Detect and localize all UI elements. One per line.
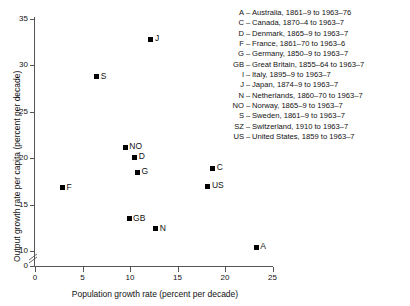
x-axis-tick-label: 25 — [261, 274, 285, 282]
x-axis-tick-label: 5 — [71, 274, 95, 282]
legend-item-key: SZ — [224, 122, 244, 132]
legend-item-key: F — [224, 39, 244, 49]
legend-item: S–Sweden, 1861–9 to 1963–7 — [224, 111, 408, 121]
data-point-label: S — [101, 72, 107, 81]
data-point-marker — [210, 166, 215, 171]
legend: A–Australia, 1861–9 to 1963–76C–Canada, … — [224, 8, 408, 142]
legend-item-key: GB — [224, 60, 244, 70]
x-axis-tick — [178, 267, 179, 272]
legend-item: D–Denmark, 1865–9 to 1963–7 — [224, 29, 408, 39]
data-point-label: A — [260, 242, 266, 251]
legend-item-dash: – — [244, 29, 252, 39]
legend-item-text: France, 1861–70 to 1963–6 — [252, 39, 408, 49]
legend-item-text: United States, 1859 to 1963–7 — [252, 132, 408, 142]
y-axis-line — [34, 17, 35, 267]
legend-item-text: Denmark, 1865–9 to 1963–7 — [252, 29, 408, 39]
y-axis-tick-label: 35 — [6, 15, 28, 23]
y-axis-tick — [30, 251, 35, 252]
legend-item-dash: – — [244, 122, 252, 132]
legend-item: US–United States, 1859 to 1963–7 — [224, 132, 408, 142]
data-point-marker — [153, 226, 158, 231]
data-point-marker — [123, 145, 128, 150]
data-point-label: J — [155, 34, 159, 43]
legend-item-text: Canada, 1870–4 to 1963–7 — [252, 18, 408, 28]
x-axis-line — [34, 266, 273, 267]
x-axis-tick — [225, 267, 226, 272]
y-axis-tick — [30, 19, 35, 20]
legend-item-key: J — [224, 80, 244, 90]
x-axis-tick-label: 20 — [213, 274, 237, 282]
x-axis-tick-label: 0 — [23, 274, 47, 282]
legend-item-dash: – — [244, 18, 252, 28]
data-point-label: GB — [133, 214, 145, 223]
data-point-marker — [205, 184, 210, 189]
data-point-marker — [132, 155, 137, 160]
data-point-label: N — [160, 224, 166, 233]
legend-item: I–Italy, 1895–9 to 1963–7 — [224, 70, 408, 80]
data-point-label: D — [139, 152, 145, 161]
legend-item-key: S — [224, 111, 244, 121]
data-point-marker — [60, 185, 65, 190]
legend-item: SZ–Switzerland, 1910 to 1963–7 — [224, 122, 408, 132]
y-axis-tick-label: 30 — [6, 61, 28, 69]
legend-item: G–Germany, 1850–9 to 1963–7 — [224, 49, 408, 59]
legend-item-text: Germany, 1850–9 to 1963–7 — [252, 49, 408, 59]
x-axis-tick — [273, 267, 274, 272]
legend-item-dash: – — [244, 132, 252, 142]
legend-item: C–Canada, 1870–4 to 1963–7 — [224, 18, 408, 28]
y-axis-break-icon — [28, 252, 41, 264]
data-point-label: C — [217, 163, 223, 172]
legend-item-dash: – — [244, 101, 252, 111]
legend-item-dash: – — [244, 49, 252, 59]
legend-item-text: Switzerland, 1910 to 1963–7 — [252, 122, 408, 132]
legend-item-dash: – — [244, 91, 252, 101]
y-axis-tick — [30, 65, 35, 66]
x-axis-tick — [35, 267, 36, 272]
legend-item-key: I — [224, 70, 244, 80]
legend-item-key: N — [224, 91, 244, 101]
data-point-marker — [127, 216, 132, 221]
legend-item-dash: – — [244, 8, 252, 18]
legend-item-key: G — [224, 49, 244, 59]
legend-item-text: Australia, 1861–9 to 1963–76 — [252, 8, 408, 18]
legend-item-text: Great Britain, 1855–64 to 1963–7 — [252, 60, 408, 70]
scatter-chart-figure: 01015202530350510152025 JSNODGCUSFGBNA P… — [0, 0, 410, 306]
legend-item: NO–Norway, 1865–9 to 1963–7 — [224, 101, 408, 111]
data-point-label: NO — [129, 142, 142, 151]
legend-item-dash: – — [244, 39, 252, 49]
legend-item-key: US — [224, 132, 244, 142]
legend-item-key: NO — [224, 101, 244, 111]
legend-item: GB–Great Britain, 1855–64 to 1963–7 — [224, 60, 408, 70]
y-axis-tick — [30, 205, 35, 206]
legend-item: J–Japan, 1874–9 to 1963–7 — [224, 80, 408, 90]
legend-item: A–Australia, 1861–9 to 1963–76 — [224, 8, 408, 18]
x-axis-tick — [83, 267, 84, 272]
legend-item-key: C — [224, 18, 244, 28]
x-axis-tick-label: 15 — [166, 274, 190, 282]
data-point-label: G — [142, 167, 149, 176]
data-point-label: F — [67, 183, 72, 192]
legend-item-key: D — [224, 29, 244, 39]
data-point-marker — [254, 245, 259, 250]
legend-item-dash: – — [244, 70, 252, 80]
legend-item-dash: – — [244, 60, 252, 70]
x-axis-tick-label: 10 — [118, 274, 142, 282]
data-point-marker — [148, 37, 153, 42]
data-point-marker — [135, 170, 140, 175]
y-axis-title: Output growth rate per capita (percent p… — [12, 71, 22, 262]
legend-item-dash: – — [244, 80, 252, 90]
legend-item-key: A — [224, 8, 244, 18]
legend-item-dash: – — [244, 111, 252, 121]
y-axis-tick — [30, 112, 35, 113]
y-axis-tick-label: 0 — [6, 262, 28, 270]
legend-item-text: Sweden, 1861–9 to 1963–7 — [252, 111, 408, 121]
legend-item: F–France, 1861–70 to 1963–6 — [224, 39, 408, 49]
legend-item-text: Italy, 1895–9 to 1963–7 — [252, 70, 408, 80]
data-point-marker — [94, 74, 99, 79]
legend-item-text: Japan, 1874–9 to 1963–7 — [252, 80, 408, 90]
data-point-label: US — [212, 181, 224, 190]
x-axis-tick — [130, 267, 131, 272]
legend-item-text: Netherlands, 1860–70 to 1963–7 — [252, 91, 408, 101]
y-axis-tick — [30, 158, 35, 159]
x-axis-title: Population growth rate (percent per deca… — [35, 289, 275, 299]
